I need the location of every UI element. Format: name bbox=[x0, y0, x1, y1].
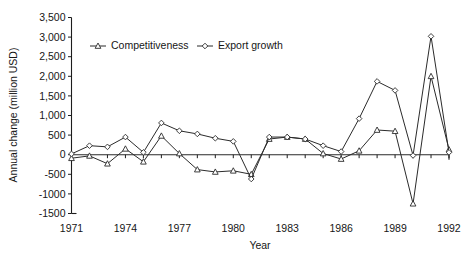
chart-container: 3,5003,0002,5002,0001,5001,0005000-500-1… bbox=[0, 0, 463, 261]
data-point bbox=[338, 149, 344, 155]
data-point bbox=[213, 135, 219, 141]
data-point bbox=[159, 120, 165, 126]
x-axis-tick-label: 1992 bbox=[437, 222, 461, 234]
line-chart: 3,5003,0002,5002,0001,5001,0005000-500-1… bbox=[0, 0, 463, 261]
y-axis-tick-label: -1000 bbox=[39, 188, 66, 200]
y-axis-title: Annual change (million USD) bbox=[7, 48, 19, 183]
data-point bbox=[105, 144, 111, 150]
data-point bbox=[392, 88, 398, 94]
legend: CompetitivenessExport growth bbox=[90, 39, 283, 51]
data-point bbox=[123, 146, 129, 151]
x-axis-title: Year bbox=[249, 239, 271, 251]
x-axis-tick-label: 1971 bbox=[60, 222, 84, 234]
legend-marker-diamond bbox=[202, 43, 208, 49]
legend-item[interactable]: Competitiveness bbox=[90, 39, 189, 51]
data-point bbox=[195, 131, 201, 137]
data-point bbox=[177, 128, 183, 134]
data-point bbox=[87, 143, 93, 149]
legend-label: Export growth bbox=[218, 39, 283, 51]
data-point bbox=[356, 116, 362, 122]
data-point bbox=[410, 201, 416, 206]
y-axis-tick-label: 500 bbox=[48, 129, 66, 141]
legend-label: Competitiveness bbox=[111, 39, 189, 51]
data-point bbox=[159, 133, 165, 138]
y-axis-tick-label: 3,000 bbox=[39, 31, 65, 43]
data-point bbox=[320, 143, 326, 149]
y-axis-tick-label: 2,000 bbox=[39, 70, 65, 82]
x-axis-tick-label: 1983 bbox=[276, 222, 300, 234]
x-axis-tick-label: 1989 bbox=[383, 222, 407, 234]
data-point bbox=[230, 139, 236, 145]
y-axis-tick-label: -1500 bbox=[39, 207, 66, 219]
y-axis-tick-label: 2,500 bbox=[39, 50, 65, 62]
y-axis-tick-label: 3,500 bbox=[39, 11, 65, 23]
series-line bbox=[72, 36, 450, 179]
y-axis-tick-label: 0 bbox=[60, 148, 66, 160]
series-export-growth bbox=[69, 34, 452, 182]
data-point bbox=[69, 151, 75, 157]
data-point bbox=[428, 34, 434, 40]
data-point bbox=[87, 153, 93, 158]
x-axis-tick-label: 1980 bbox=[222, 222, 246, 234]
y-axis-tick-label: 1,500 bbox=[39, 90, 65, 102]
data-point bbox=[374, 79, 380, 85]
data-point bbox=[428, 73, 434, 78]
x-axis-tick-label: 1974 bbox=[114, 222, 138, 234]
data-point bbox=[410, 153, 416, 159]
x-axis-tick-label: 1986 bbox=[329, 222, 353, 234]
y-axis-tick-label: -500 bbox=[44, 168, 65, 180]
legend-item[interactable]: Export growth bbox=[197, 39, 283, 51]
y-axis-tick-label: 1,000 bbox=[39, 109, 65, 121]
x-axis-tick-label: 1977 bbox=[168, 222, 192, 234]
